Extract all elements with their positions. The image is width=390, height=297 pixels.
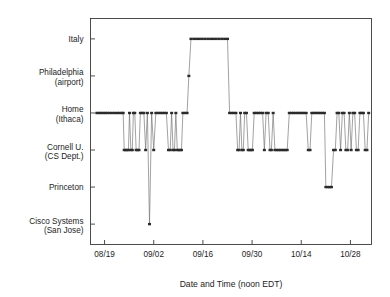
data-point-marker [261, 112, 264, 114]
x-axis-title: Date and Time (noon EDT) [180, 279, 283, 289]
data-point-marker [137, 149, 140, 151]
x-tick-label: 09/02 [143, 250, 164, 259]
data-point-marker [309, 149, 312, 151]
data-point-marker [365, 149, 368, 151]
data-point-marker [242, 149, 245, 151]
data-point-marker [195, 38, 198, 40]
data-point-marker [218, 38, 221, 40]
data-point-marker [272, 112, 275, 114]
data-point-marker [305, 112, 308, 114]
location-timeline-chart: ItalyPhiladelphia(airport)Home(Ithaca)Co… [0, 0, 390, 297]
data-point-marker [146, 112, 149, 114]
data-point-marker [189, 38, 192, 40]
data-point-marker [204, 38, 207, 40]
data-point-marker [334, 149, 337, 151]
data-point-marker [212, 38, 215, 40]
y-tick-label-line2: (CS Dept.) [45, 152, 84, 161]
data-point-marker [187, 75, 190, 77]
y-tick-label-line1: Italy [68, 35, 84, 44]
data-point-marker [251, 149, 254, 151]
data-point-marker [201, 38, 204, 40]
y-tick-label-line1: Home [62, 105, 84, 114]
data-point-marker [226, 38, 229, 40]
x-tick-label: 09/30 [242, 250, 263, 259]
data-point-marker [346, 149, 349, 151]
data-point-marker [267, 112, 270, 114]
x-tick-label: 08/19 [94, 250, 115, 259]
data-point-marker [357, 149, 360, 151]
y-tick-label-line1: Princeton [49, 183, 84, 192]
data-point-marker [362, 112, 365, 114]
x-tick-label: 10/14 [291, 250, 312, 259]
data-point-marker [133, 112, 136, 114]
data-point-marker [234, 112, 237, 114]
data-point-marker [223, 38, 226, 40]
data-point-marker [170, 112, 173, 114]
data-point-marker [286, 149, 289, 151]
x-tick-label: 09/16 [193, 250, 214, 259]
data-point-marker [209, 38, 212, 40]
data-point-marker [220, 38, 223, 40]
data-point-marker [144, 149, 147, 151]
y-tick-label-line2: (Ithaca) [56, 115, 84, 124]
data-point-marker [239, 112, 242, 114]
chart-figure: ItalyPhiladelphia(airport)Home(Ithaca)Co… [0, 0, 390, 297]
data-point-marker [350, 149, 353, 151]
data-point-marker [343, 112, 346, 114]
data-point-marker [142, 112, 145, 114]
data-point-marker [245, 112, 248, 114]
y-tick-label-line1: Philadelphia [39, 68, 84, 77]
data-point-marker [353, 112, 356, 114]
data-point-marker [122, 112, 125, 114]
y-tick-label-line2: (San Jose) [44, 226, 84, 235]
data-point-marker [270, 149, 273, 151]
y-tick-label-line1: Cisco Systems [29, 217, 83, 226]
data-point-marker [128, 112, 131, 114]
data-point-marker [174, 112, 177, 114]
data-point-marker [330, 186, 333, 188]
data-point-marker [263, 149, 266, 151]
data-point-marker [150, 112, 153, 114]
data-point-marker [337, 112, 340, 114]
data-point-marker [165, 112, 168, 114]
y-tick-label-line2: (airport) [55, 78, 84, 87]
data-point-marker [348, 112, 351, 114]
data-point-marker [339, 149, 342, 151]
data-point-marker [192, 38, 195, 40]
data-point-marker [215, 38, 218, 40]
data-point-marker [186, 112, 189, 114]
data-point-marker [169, 149, 172, 151]
data-point-marker [173, 149, 176, 151]
data-point-marker [148, 223, 151, 225]
y-tick-label-line1: Cornell U. [47, 143, 83, 152]
data-point-marker [367, 112, 370, 114]
data-point-marker [323, 112, 326, 114]
x-tick-label: 10/28 [340, 250, 361, 259]
data-point-marker [131, 149, 134, 151]
data-point-marker [238, 149, 241, 151]
data-point-marker [198, 38, 201, 40]
data-point-marker [152, 149, 155, 151]
data-point-marker [180, 149, 183, 151]
data-point-marker [206, 38, 209, 40]
